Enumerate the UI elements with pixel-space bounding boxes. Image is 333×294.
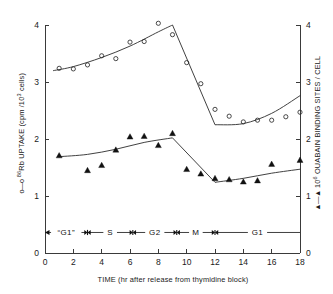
ouabain-sites-data-point: [170, 130, 176, 135]
y-left-main-text: Rb UPTAKE (cpm /: [17, 105, 26, 171]
tick-labels-group: 0246810121416180123401234: [34, 20, 311, 267]
x-tick-label: 6: [128, 257, 133, 267]
ouabain-sites-data-point: [269, 161, 275, 166]
x-axis-title: TIME (hr after release from thymidine bl…: [45, 275, 301, 284]
axes-group: [45, 25, 300, 253]
phase-label-g1_quoted: “G1”: [57, 228, 75, 237]
x-tick-label: 4: [99, 257, 104, 267]
x-tick-label: 18: [295, 257, 305, 267]
phase-bar-left-arrow: [45, 230, 50, 235]
y-left-tick-label: 0: [34, 248, 39, 258]
y-left-tick-label: 1: [34, 191, 39, 201]
data-markers-group: [56, 21, 303, 184]
ouabain-sites-data-point: [155, 142, 161, 147]
rb-uptake-fit-curve: [54, 25, 301, 125]
rb-uptake-data-point: [114, 57, 118, 61]
figure-container: “G1”SG2MG1 0246810121416180123401234 o—o…: [0, 0, 333, 294]
isotope-superscript: 86: [16, 171, 22, 178]
y-left-ten: 10: [17, 97, 26, 106]
phase-label-m: M: [192, 228, 199, 237]
ouabain-sites-data-point: [56, 153, 62, 158]
phase-label-g1: G1: [252, 228, 264, 237]
rb-uptake-data-point: [199, 82, 203, 86]
y-left-tick-label: 2: [34, 134, 39, 144]
y-axis-left-title: o—o 86Rb UPTAKE (cpm /103 cells): [16, 38, 26, 228]
y-right-tick-label: 4: [306, 20, 311, 30]
phase-label-s: S: [107, 228, 113, 237]
ouabain-sites-data-point: [240, 179, 246, 184]
rb-uptake-data-point: [170, 33, 174, 37]
y-right-tick-label: 3: [306, 77, 311, 87]
ouabain-sites-data-point: [255, 178, 261, 183]
x-tick-label: 2: [71, 257, 76, 267]
ouabain-sites-data-point: [85, 167, 91, 172]
y-left-tick-label: 3: [34, 77, 39, 87]
rb-uptake-data-point: [142, 39, 146, 43]
x-tick-label: 10: [182, 257, 192, 267]
rb-uptake-data-point: [71, 67, 75, 71]
y-axis-right-title: ▲—▲ 106 OUABAIN BINDING SITES / CELL: [312, 38, 322, 228]
rb-uptake-data-point: [128, 40, 132, 44]
phase-label-g2: G2: [149, 228, 161, 237]
cell-cycle-phase-bar: “G1”SG2MG1: [45, 228, 300, 237]
chart-canvas: “G1”SG2MG1 0246810121416180123401234: [0, 0, 333, 294]
rb-uptake-data-point: [85, 63, 89, 67]
ouabain-sites-data-point: [127, 134, 133, 139]
rb-uptake-data-point: [213, 107, 217, 111]
x-tick-label: 14: [239, 257, 249, 267]
y-left-tail: cells): [17, 73, 26, 93]
ouabain-sites-fit-curve: [59, 138, 300, 182]
y-right-main-text: OUABAIN BINDING SITES / CELL: [313, 56, 322, 174]
y-right-tick-label: 1: [306, 191, 311, 201]
rb-uptake-data-point: [270, 118, 274, 122]
ouabain-sites-data-point: [226, 176, 232, 181]
ouabain-sites-data-point: [212, 175, 218, 180]
ouabain-sites-data-point: [297, 157, 303, 162]
x-tick-label: 0: [43, 257, 48, 267]
ouabain-sites-data-point: [99, 162, 105, 167]
y-left-exponent: 3: [16, 93, 22, 96]
rb-uptake-data-point: [284, 115, 288, 119]
ouabain-sites-data-point: [184, 166, 190, 171]
x-tick-label: 8: [156, 257, 161, 267]
fit-curves-group: [54, 25, 301, 182]
x-tick-label: 12: [210, 257, 220, 267]
x-tick-label: 16: [267, 257, 277, 267]
y-left-tick-label: 4: [34, 20, 39, 30]
filled-triangle-legend-icon: ▲—▲: [313, 190, 322, 211]
y-right-tick-label: 0: [306, 248, 311, 258]
ouabain-sites-data-point: [141, 133, 147, 138]
rb-uptake-data-point: [227, 114, 231, 118]
y-right-ten: 10: [313, 180, 322, 189]
y-right-tick-label: 2: [306, 134, 311, 144]
ouabain-sites-data-point: [198, 171, 204, 176]
rb-uptake-data-point: [156, 21, 160, 25]
open-circle-legend-icon: o—o: [17, 179, 26, 193]
y-right-exponent: 6: [312, 176, 318, 179]
